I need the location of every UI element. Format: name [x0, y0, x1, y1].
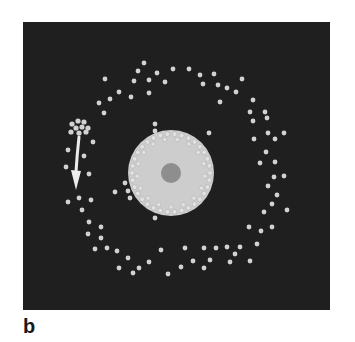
- cell-surface-particle: [157, 203, 161, 207]
- particle-dot: [208, 258, 213, 263]
- particle-dot: [251, 119, 256, 124]
- cell-surface-particle: [202, 161, 206, 165]
- particle-dot: [238, 245, 243, 250]
- cell-surface-particle: [207, 178, 212, 183]
- particle-dot: [179, 265, 184, 270]
- cell-surface-particle: [136, 161, 140, 165]
- particle-dot: [263, 110, 268, 115]
- cell-surface-particle: [135, 174, 139, 178]
- particle-dot: [248, 110, 253, 115]
- particle-dot: [282, 174, 287, 179]
- particle-dot: [212, 72, 217, 77]
- particle-dot: [262, 210, 267, 215]
- particle-dot: [159, 248, 164, 253]
- particle-dot: [275, 193, 280, 198]
- particle-dot: [77, 196, 82, 201]
- particle-dot: [147, 91, 152, 96]
- panel-label: b: [23, 316, 35, 336]
- cell-surface-particle: [207, 163, 212, 168]
- cluster-particle: [73, 125, 78, 130]
- cluster-particle: [81, 119, 86, 124]
- cell-surface-particle: [192, 139, 197, 144]
- particle-dot: [234, 90, 239, 95]
- particle-dot: [228, 260, 233, 265]
- cell-surface-particle: [186, 206, 191, 211]
- cluster-particle: [83, 129, 88, 134]
- particle-dot: [270, 202, 275, 207]
- particle-dot: [142, 61, 147, 66]
- cell-surface-particle: [196, 150, 200, 154]
- cell-surface-particle: [130, 178, 135, 183]
- particle-dot: [202, 266, 207, 271]
- cell-surface-particle: [145, 202, 150, 207]
- cell-surface-particle: [199, 186, 203, 190]
- cell-surface-particle: [140, 144, 145, 149]
- particle-dot: [87, 172, 92, 177]
- cell-surface-particle: [151, 206, 156, 211]
- cell-surface-particle: [146, 196, 150, 200]
- particle-dot: [225, 245, 230, 250]
- particle-dot: [155, 71, 160, 76]
- particle-dot: [64, 165, 69, 170]
- cell-surface-particle: [145, 139, 150, 144]
- particle-dot: [207, 131, 212, 136]
- particle-dot: [166, 272, 171, 277]
- cell-surface-particle: [169, 205, 173, 209]
- particle-dot: [137, 266, 142, 271]
- particle-dot: [266, 184, 271, 189]
- cluster-particle: [75, 118, 80, 123]
- particle-dot: [113, 190, 118, 195]
- particle-dot: [147, 78, 152, 83]
- cell-surface-particle: [192, 196, 196, 200]
- cell-surface-particle: [142, 150, 146, 154]
- particle-dot: [126, 189, 131, 194]
- cell-surface-particle: [197, 197, 202, 202]
- particle-dot: [66, 200, 71, 205]
- particle-dot: [103, 77, 108, 82]
- particle-dot: [115, 249, 120, 254]
- cell-surface-particle: [205, 185, 210, 190]
- particle-dot: [264, 150, 269, 155]
- particle-dot: [117, 266, 122, 271]
- cell-surface-particle: [172, 132, 177, 137]
- cell-surface-particle: [203, 174, 207, 178]
- particle-dot: [201, 82, 206, 87]
- particle-dot: [132, 79, 137, 84]
- cell-surface-particle: [165, 209, 170, 214]
- cell-surface-particle: [130, 163, 135, 168]
- cell-surface-particle: [130, 171, 135, 176]
- particle-dot: [216, 83, 221, 88]
- particle-dot: [97, 101, 102, 106]
- cell-surface-particle: [192, 202, 197, 207]
- particle-dot: [272, 175, 277, 180]
- cell-surface-particle: [187, 142, 191, 146]
- particle-dot: [128, 196, 133, 201]
- particle-dot: [183, 246, 188, 251]
- particle-dot: [285, 208, 290, 213]
- particle-dot: [259, 229, 264, 234]
- cell-surface-particle: [158, 208, 163, 213]
- particle-dot: [153, 216, 158, 221]
- cell-surface-particle: [132, 185, 137, 190]
- particle-dot: [248, 259, 253, 264]
- particle-dot: [136, 69, 141, 74]
- particle-dot: [225, 86, 230, 91]
- central-cell: [128, 130, 214, 216]
- cell-surface-particle: [138, 186, 142, 190]
- cell-diagram: [0, 0, 355, 342]
- particle-dot: [117, 90, 122, 95]
- particle-dot: [102, 111, 107, 116]
- particle-dot: [82, 154, 87, 159]
- particle-dot: [86, 232, 91, 237]
- cell-surface-particle: [163, 137, 167, 141]
- particle-dot: [147, 260, 152, 265]
- cell-surface-particle: [205, 157, 210, 162]
- particle-dot: [87, 220, 92, 225]
- cell-surface-particle: [197, 144, 202, 149]
- cell-surface-particle: [140, 197, 145, 202]
- cell-surface-particle: [181, 203, 185, 207]
- particle-dot: [108, 97, 113, 102]
- particle-dot: [99, 236, 104, 241]
- particle-dot: [105, 246, 110, 251]
- particle-dot: [233, 252, 238, 257]
